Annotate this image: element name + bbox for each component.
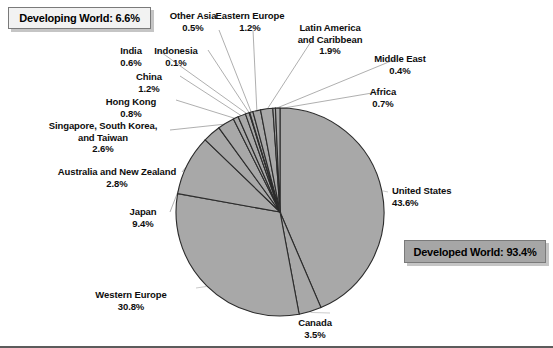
slice-label-text: Western Europe — [95, 289, 166, 300]
leader-line-hong-kong — [176, 100, 236, 119]
slice-label-percent: 3.5% — [298, 329, 332, 341]
slice-label-china: China 1.2% — [136, 71, 162, 94]
leader-line-canada — [311, 312, 330, 313]
slice-label-text: Hong Kong — [106, 96, 156, 107]
slice-label-percent: 2.6% — [49, 143, 158, 155]
slice-label-percent: 2.8% — [58, 178, 176, 190]
slice-label-text-line1: Singapore, South Korea, — [49, 120, 158, 131]
slice-label-africa: Africa 0.7% — [370, 86, 396, 109]
slice-label-text-line2: and Taiwan — [49, 132, 158, 144]
slice-label-canada: Canada 3.5% — [298, 317, 332, 340]
slice-label-percent: 1.9% — [298, 45, 363, 57]
callout-developed-world: Developed World: 93.4% — [404, 240, 546, 263]
slice-label-text-line2: and Caribbean — [298, 34, 363, 46]
leader-line-africa — [278, 92, 378, 109]
slice-label-text: Indonesia — [154, 45, 197, 56]
slice-label-text: Eastern Europe — [216, 10, 285, 21]
slice-label-percent: 0.8% — [106, 108, 156, 120]
slice-label-percent: 1.2% — [136, 83, 162, 95]
leader-line-other-asia — [219, 30, 252, 113]
slice-label-text: United States — [392, 185, 451, 196]
slice-label-percent: 0.4% — [374, 65, 426, 77]
callout-developed-world-text: Developed World: 93.4% — [413, 246, 536, 258]
slice-label-singapore-south-korea-taiwan: Singapore, South Korea, and Taiwan 2.6% — [49, 120, 158, 155]
slice-label-percent: 30.8% — [95, 301, 166, 313]
slice-label-text: Canada — [298, 317, 332, 328]
pie-slices-group — [176, 108, 384, 316]
slice-label-percent: 9.4% — [130, 218, 157, 230]
slice-label-middle-east: Middle East 0.4% — [374, 53, 426, 76]
slice-label-other-asia: Other Asia 0.5% — [170, 10, 217, 33]
slice-label-percent: 43.6% — [392, 197, 451, 209]
slice-label-western-europe: Western Europe 30.8% — [95, 289, 166, 312]
leader-line-western-europe — [196, 287, 206, 288]
slice-label-latin-america-caribbean: Latin America and Caribbean 1.9% — [298, 22, 363, 57]
slice-label-japan: Japan 9.4% — [130, 206, 157, 229]
slice-label-eastern-europe: Eastern Europe 1.2% — [216, 10, 285, 33]
slice-label-text: China — [136, 71, 162, 82]
slice-label-percent: 0.6% — [120, 57, 142, 69]
slice-label-text: Middle East — [374, 53, 426, 64]
callout-developing-world-text: Developing World: 6.6% — [19, 12, 140, 24]
slice-label-percent: 0.7% — [370, 98, 396, 110]
leader-line-eastern-europe — [253, 30, 257, 112]
slice-label-united-states: United States 43.6% — [392, 185, 451, 208]
slice-label-india: India 0.6% — [120, 45, 142, 68]
leader-line-indonesia — [208, 50, 250, 114]
slice-label-percent: 0.1% — [154, 57, 197, 69]
slice-label-australia-new-zealand: Australia and New Zealand 2.8% — [58, 166, 176, 189]
slice-label-text: Africa — [370, 86, 396, 97]
slice-label-indonesia: Indonesia 0.1% — [154, 45, 197, 68]
leader-line-united-states — [383, 191, 388, 192]
slice-label-percent: 1.2% — [216, 22, 285, 34]
slice-label-text: Other Asia — [170, 10, 217, 21]
slice-label-hong-kong: Hong Kong 0.8% — [106, 96, 156, 119]
slice-label-text: Australia and New Zealand — [58, 166, 176, 177]
slice-label-text-line1: Latin America — [299, 22, 360, 33]
slice-label-text: Japan — [130, 206, 157, 217]
callout-developing-world: Developing World: 6.6% — [8, 7, 151, 29]
slice-label-percent: 0.5% — [170, 22, 217, 34]
slice-label-text: India — [120, 45, 142, 56]
leader-line-china — [180, 76, 242, 116]
